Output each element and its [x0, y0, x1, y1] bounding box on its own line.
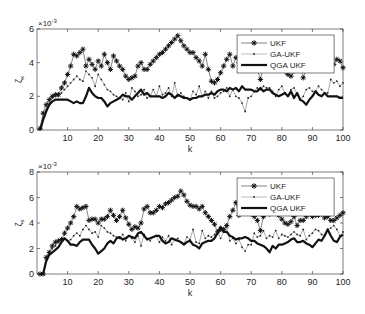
- dot-marker: [229, 240, 231, 242]
- dot-marker: [284, 235, 286, 237]
- legend: UKFGA-UKFQGA UKF: [237, 35, 334, 73]
- y-label-subscript: x: [19, 76, 25, 79]
- dot-marker: [128, 100, 130, 102]
- dot-marker: [61, 92, 63, 94]
- dot-marker: [51, 248, 53, 250]
- x-tick-label: 60: [216, 133, 226, 143]
- dot-marker: [293, 87, 295, 89]
- dot-marker: [263, 85, 265, 87]
- y-label-subscript: s: [19, 220, 25, 223]
- dot-marker: [241, 246, 243, 248]
- dot-marker: [195, 94, 197, 96]
- x-tick-label: 50: [185, 133, 195, 143]
- dot-marker: [336, 228, 338, 230]
- dot-marker: [152, 89, 154, 91]
- dot-marker: [220, 237, 222, 239]
- dot-marker: [247, 244, 249, 246]
- star-marker: [65, 72, 70, 77]
- star-marker: [203, 210, 208, 215]
- dot-marker: [122, 99, 124, 101]
- dot-marker: [342, 231, 344, 233]
- dot-marker: [321, 234, 323, 236]
- dot-marker: [247, 97, 249, 99]
- star-marker: [117, 214, 122, 219]
- dot-marker: [146, 97, 148, 99]
- legend-label: QGA UKF: [270, 204, 306, 213]
- star-marker: [65, 226, 70, 231]
- dot-marker: [192, 90, 194, 92]
- dot-marker: [79, 235, 81, 237]
- star-marker: [197, 58, 202, 63]
- dot-marker: [64, 89, 66, 91]
- dot-marker: [290, 234, 292, 236]
- star-marker: [218, 70, 223, 75]
- dot-marker: [134, 90, 136, 92]
- dot-marker: [315, 228, 317, 230]
- dot-marker: [250, 95, 252, 97]
- dot-marker: [113, 94, 115, 96]
- x-tick-label: 40: [154, 277, 164, 287]
- dot-marker: [241, 102, 243, 104]
- y-tick-label: 2: [29, 244, 34, 254]
- star-marker: [145, 204, 150, 209]
- dot-marker: [125, 92, 127, 94]
- dot-marker: [100, 79, 102, 81]
- y-tick-label: 4: [29, 58, 34, 68]
- dot-marker: [76, 75, 78, 77]
- star-marker: [132, 74, 137, 79]
- star-marker: [200, 63, 205, 68]
- star-marker: [288, 74, 293, 79]
- dot-marker: [58, 95, 60, 97]
- dot-marker: [88, 228, 90, 230]
- dot-marker: [91, 232, 93, 234]
- dot-marker: [168, 87, 170, 89]
- star-marker: [93, 67, 98, 72]
- dot-marker: [177, 237, 179, 239]
- x-tick-label: 20: [93, 133, 103, 143]
- star-marker: [175, 194, 180, 199]
- dot-marker: [293, 231, 295, 233]
- dot-marker: [244, 111, 246, 113]
- star-marker: [83, 63, 88, 68]
- dot-marker: [162, 94, 164, 96]
- dot-marker: [110, 90, 112, 92]
- star-marker: [175, 33, 180, 38]
- dot-marker: [198, 85, 200, 87]
- dot-marker: [327, 92, 329, 94]
- star-marker: [178, 189, 183, 194]
- dot-marker: [201, 230, 203, 232]
- dot-marker: [211, 236, 213, 238]
- star-marker: [96, 58, 101, 63]
- x-tick-label: 80: [277, 133, 287, 143]
- y-tick-label: 0: [29, 269, 34, 279]
- dot-marker: [171, 244, 173, 246]
- dot-marker: [106, 231, 108, 233]
- dot-marker: [165, 92, 167, 94]
- dot-marker: [70, 82, 72, 84]
- exponent-power: -3: [52, 18, 58, 24]
- star-marker: [190, 50, 195, 55]
- star-marker: [337, 58, 342, 63]
- star-marker: [221, 63, 226, 68]
- dot-marker: [330, 79, 332, 81]
- star-marker: [135, 226, 140, 231]
- x-axis-label: k: [188, 288, 193, 298]
- dot-marker: [73, 79, 75, 81]
- star-marker: [108, 208, 113, 213]
- star-marker: [178, 38, 183, 43]
- dot-marker: [339, 85, 341, 87]
- dot-marker: [321, 89, 323, 91]
- dot-marker: [333, 82, 335, 84]
- star-marker: [224, 57, 229, 62]
- dot-marker: [312, 90, 314, 92]
- star-marker: [200, 204, 205, 209]
- x-tick-label: 80: [277, 277, 287, 287]
- star-marker: [203, 52, 208, 57]
- dot-marker: [226, 226, 228, 228]
- dot-marker: [278, 89, 280, 91]
- star-marker: [102, 52, 107, 57]
- dot-marker: [122, 234, 124, 236]
- legend-label: UKF: [270, 39, 286, 48]
- star-marker: [209, 218, 214, 223]
- x-tick-label: 30: [124, 133, 134, 143]
